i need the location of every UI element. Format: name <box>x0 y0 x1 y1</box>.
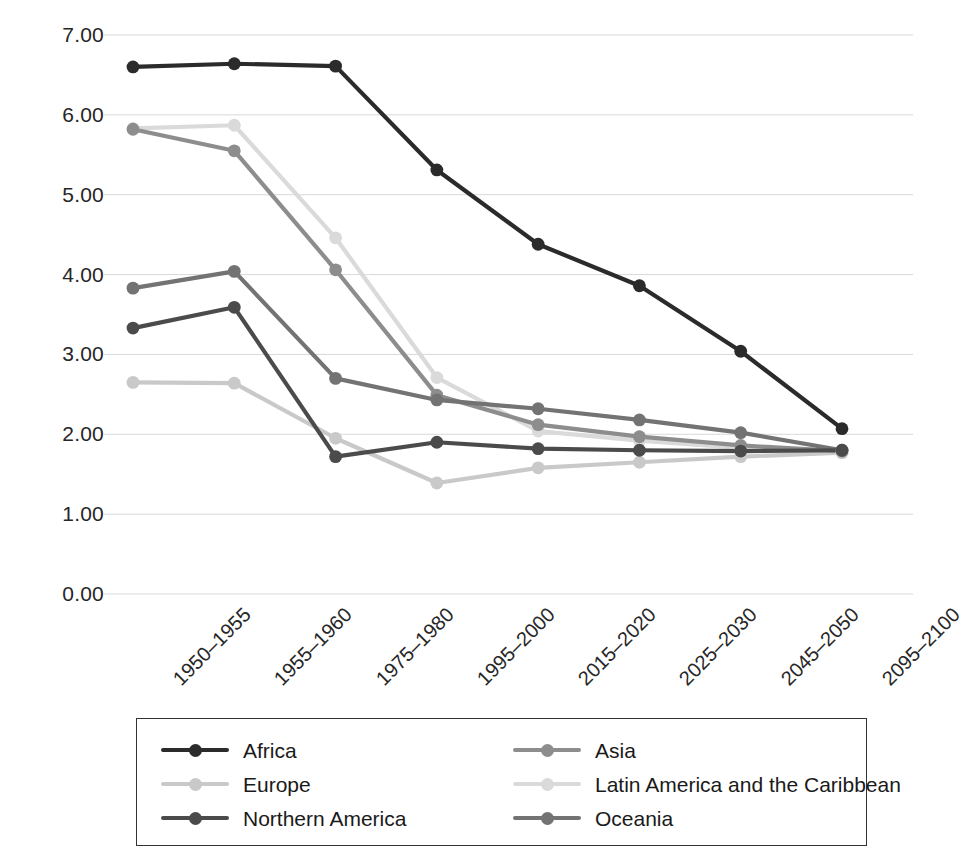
data-point <box>329 231 342 244</box>
legend-item-label: Oceania <box>595 808 673 829</box>
data-point <box>329 450 342 463</box>
x-axis-tick-label-text: 1975–1980 <box>372 604 457 689</box>
data-point <box>532 418 545 431</box>
data-point <box>633 430 646 443</box>
legend-marker-icon <box>513 811 581 825</box>
legend-item[interactable]: Latin America and the Caribbean <box>513 767 901 801</box>
legend-dot <box>541 778 554 791</box>
x-axis-tick-label: 2095–2100 <box>878 604 963 689</box>
legend-marker-icon <box>161 777 229 791</box>
data-point <box>734 345 747 358</box>
data-point <box>430 436 443 449</box>
x-axis-tick-label: 1955–1960 <box>271 604 356 689</box>
data-point <box>633 456 646 469</box>
data-point <box>228 265 241 278</box>
x-axis-tick-label: 1995–2000 <box>473 604 558 689</box>
legend-dot <box>541 812 554 825</box>
series-line <box>133 64 842 429</box>
data-point <box>127 61 140 74</box>
data-point <box>836 444 849 457</box>
data-point <box>228 119 241 132</box>
x-axis-tick-label-text: 1995–2000 <box>473 604 558 689</box>
data-point <box>430 477 443 490</box>
data-point <box>532 402 545 415</box>
data-point <box>532 461 545 474</box>
data-point <box>836 422 849 435</box>
legend-dot <box>189 778 202 791</box>
data-point <box>127 282 140 295</box>
series-markers <box>127 57 849 489</box>
legend-dot <box>189 812 202 825</box>
data-point <box>228 57 241 70</box>
data-point <box>734 445 747 458</box>
legend-item[interactable]: Northern America <box>161 801 513 835</box>
series-line <box>133 271 842 450</box>
x-axis-tick-label: 2025–2030 <box>676 604 761 689</box>
data-point <box>633 414 646 427</box>
data-point <box>532 442 545 455</box>
x-axis-tick-label: 2045–2050 <box>777 604 862 689</box>
legend-item-label: Latin America and the Caribbean <box>595 774 901 795</box>
legend-marker-icon <box>513 743 581 757</box>
data-point <box>633 444 646 457</box>
x-axis-tick-label-text: 2045–2050 <box>777 604 862 689</box>
data-point <box>329 432 342 445</box>
data-point <box>127 123 140 136</box>
x-axis-tick-labels: 1950–19551955–19601975–19801995–20002015… <box>0 594 931 714</box>
line-chart: 7.006.005.004.003.002.001.000.00 <box>0 0 931 600</box>
legend-item-label: Europe <box>243 774 311 795</box>
plot-canvas <box>0 0 931 600</box>
data-point <box>228 301 241 314</box>
data-point <box>734 426 747 439</box>
legend-item[interactable]: Africa <box>161 733 513 767</box>
legend-marker-icon <box>161 743 229 757</box>
legend-grid: AfricaAsiaEuropeLatin America and the Ca… <box>161 733 866 835</box>
legend-dot <box>189 744 202 757</box>
data-point <box>430 164 443 177</box>
legend-item-label: Africa <box>243 740 297 761</box>
x-axis-tick-label-text: 1955–1960 <box>271 604 356 689</box>
data-point <box>228 144 241 157</box>
x-axis-tick-label-text: 2025–2030 <box>676 604 761 689</box>
x-axis-tick-label: 1950–1955 <box>169 604 254 689</box>
legend-item-label: Northern America <box>243 808 406 829</box>
gridlines <box>104 35 913 594</box>
data-point <box>430 394 443 407</box>
data-point <box>329 372 342 385</box>
data-point <box>127 322 140 335</box>
x-axis-tick-label: 2015–2020 <box>574 604 659 689</box>
x-axis-tick-label-text: 2095–2100 <box>878 604 963 689</box>
legend-marker-icon <box>513 777 581 791</box>
data-point <box>532 238 545 251</box>
legend-marker-icon <box>161 811 229 825</box>
legend-dot <box>541 744 554 757</box>
x-axis-tick-label: 1975–1980 <box>372 604 457 689</box>
legend-item[interactable]: Asia <box>513 733 901 767</box>
data-point <box>329 263 342 276</box>
data-point <box>633 279 646 292</box>
data-point <box>329 60 342 73</box>
data-point <box>430 371 443 384</box>
legend-item[interactable]: Oceania <box>513 801 901 835</box>
chart-legend: AfricaAsiaEuropeLatin America and the Ca… <box>136 718 867 846</box>
legend-item[interactable]: Europe <box>161 767 513 801</box>
x-axis-tick-label-text: 1950–1955 <box>169 604 254 689</box>
data-point <box>127 376 140 389</box>
x-axis-tick-label-text: 2015–2020 <box>574 604 659 689</box>
legend-item-label: Asia <box>595 740 636 761</box>
data-point <box>228 377 241 390</box>
